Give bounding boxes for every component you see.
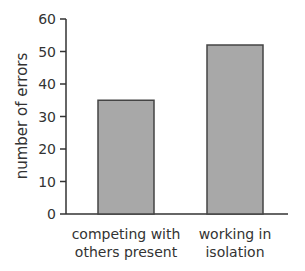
bars <box>98 45 263 214</box>
y-axis-label: number of errors <box>13 52 31 179</box>
bar <box>207 45 263 214</box>
y-tick-label: 10 <box>38 174 56 190</box>
x-category-label: competing with <box>72 226 181 242</box>
y-tick-label: 40 <box>38 76 56 92</box>
y-tick-label: 0 <box>47 206 56 222</box>
x-axis-labels: competing withothers presentworking inis… <box>72 226 272 260</box>
bar-chart: 0102030405060 competing withothers prese… <box>0 0 305 271</box>
y-tick-label: 20 <box>38 141 56 157</box>
y-tick-label: 50 <box>38 44 56 60</box>
x-category-label: isolation <box>205 244 264 260</box>
x-category-label: working in <box>199 226 272 242</box>
y-axis-ticks: 0102030405060 <box>38 11 66 222</box>
y-tick-label: 30 <box>38 109 56 125</box>
bar <box>98 100 154 214</box>
x-category-label: others present <box>75 244 178 260</box>
y-tick-label: 60 <box>38 11 56 27</box>
